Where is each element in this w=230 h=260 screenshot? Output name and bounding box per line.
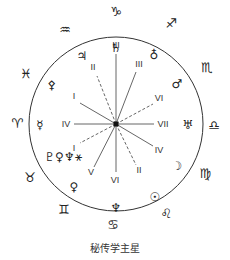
zodiac-gemini-icon: ♊ <box>58 202 70 217</box>
planet-neptune-icon: ♆ <box>111 201 122 215</box>
ray-label: II <box>136 165 141 175</box>
ray-line-solid <box>94 124 116 167</box>
ray-label: VI <box>155 93 164 103</box>
planet-symbols: ♄♁♂♅☽☉♆♀♇♀♆⚹☿⚴♃ <box>36 41 193 215</box>
ray-line-solid <box>116 72 136 124</box>
zodiac-pisces-icon: ♓ <box>20 66 32 81</box>
planet-sun-icon: ☉ <box>150 190 161 204</box>
ray-label: VI <box>111 175 120 185</box>
zodiac-taurus-icon: ♉ <box>24 170 36 185</box>
planet-uranus-icon: ♅ <box>183 118 194 132</box>
planet-saturn-icon: ♄ <box>111 41 122 55</box>
zodiac-capricorn-icon: ♑ <box>110 4 122 19</box>
ray-label: II <box>90 62 95 72</box>
ray-line-dashed <box>97 76 116 124</box>
ray-line-dashed <box>116 104 153 124</box>
planet-jupiter-icon: ♃ <box>77 49 88 63</box>
ray-line-dashed <box>80 124 116 143</box>
ray-lines <box>74 54 154 172</box>
zodiac-libra-icon: ♎ <box>208 118 220 133</box>
ray-label: III <box>135 59 143 69</box>
zodiac-sagittarius-icon: ♐ <box>165 16 177 31</box>
diagram-caption: 秘传学主星 <box>0 240 230 255</box>
planet-mercury-icon: ☿ <box>36 118 43 132</box>
ray-label: V <box>88 167 94 177</box>
ray-label: VII <box>157 119 168 129</box>
zodiac-aries-icon: ♈ <box>11 116 23 131</box>
ray-label: IV <box>155 145 164 155</box>
planet-moon-icon: ☽ <box>172 159 183 173</box>
zodiac-aquarius-icon: ♒ <box>59 22 71 37</box>
zodiac-cancer-icon: ♋ <box>107 217 119 232</box>
center-point <box>114 122 119 127</box>
planet-vulcan-pluto-group-icon: ♇♀♆⚹ <box>44 150 81 164</box>
ray-label: IV <box>62 119 71 129</box>
ray-label: I <box>73 91 76 101</box>
zodiac-virgo-icon: ♍ <box>199 166 211 181</box>
planet-mars-icon: ♂ <box>172 77 183 91</box>
planet-venus-icon: ♀ <box>70 180 79 194</box>
planet-vulcan-icon: ⚴ <box>48 78 57 92</box>
zodiac-scorpio-icon: ♏ <box>201 60 213 75</box>
esoteric-rulers-diagram: IIIIIIVIVIIIVIIVIVIIVIII ♑♐♏♎♍♌♋♊♉♈♓♒ ♄♁… <box>0 0 230 260</box>
planet-earth-icon: ♁ <box>150 48 159 62</box>
ray-line-solid <box>80 103 116 124</box>
zodiac-leo-icon: ♌ <box>160 206 172 221</box>
